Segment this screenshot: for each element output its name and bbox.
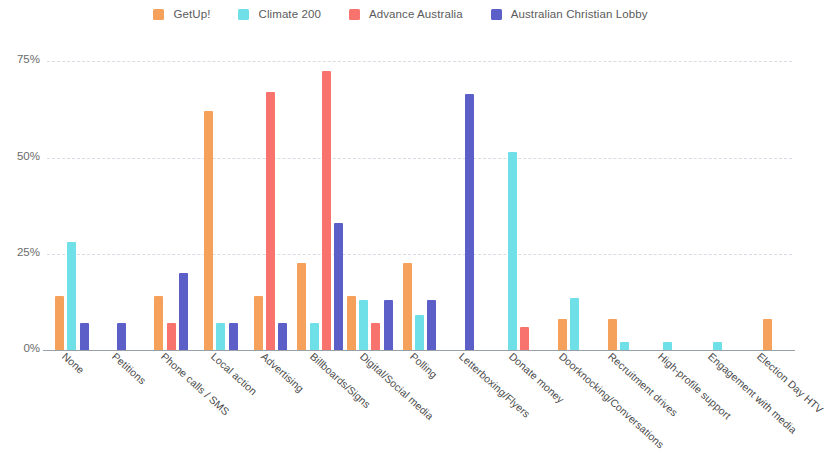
bar-group — [544, 42, 594, 350]
bar-group — [146, 42, 196, 350]
bar-group — [643, 42, 693, 350]
legend-item-label: GetUp! — [173, 8, 210, 20]
x-axis-tick-label: Local action — [209, 350, 260, 397]
legend-swatch-icon — [238, 9, 249, 20]
y-axis-tick-label: 50% — [0, 150, 40, 162]
legend-item-label: Advance Australia — [369, 8, 463, 20]
bar[interactable] — [508, 152, 517, 350]
legend-swatch-icon — [349, 9, 360, 20]
bar[interactable] — [80, 323, 89, 350]
bar[interactable] — [570, 298, 579, 350]
bar-group — [742, 42, 792, 350]
y-axis-tick-label: 25% — [0, 246, 40, 258]
bar[interactable] — [663, 342, 672, 350]
bar[interactable] — [55, 296, 64, 350]
bar[interactable] — [266, 92, 275, 350]
x-axis-tick-label: Advertising — [258, 350, 305, 394]
x-axis-tick-label: None — [60, 350, 87, 376]
bar[interactable] — [67, 242, 76, 350]
bar[interactable] — [254, 296, 263, 350]
x-axis-tick-label: Doorknocking/Conversations — [556, 350, 666, 450]
bar-group — [97, 42, 147, 350]
bar-group — [693, 42, 743, 350]
legend-swatch-icon — [153, 9, 164, 20]
bar[interactable] — [763, 319, 772, 350]
bar[interactable] — [359, 300, 368, 350]
bar[interactable] — [167, 323, 176, 350]
bar-group — [47, 42, 97, 350]
bar-group — [593, 42, 643, 350]
bar[interactable] — [384, 300, 393, 350]
bar[interactable] — [465, 94, 474, 350]
bar[interactable] — [427, 300, 436, 350]
legend-item-label: Climate 200 — [258, 8, 320, 20]
bar[interactable] — [347, 296, 356, 350]
x-axis-tick-label: Polling — [407, 350, 439, 380]
legend-item-label: Australian Christian Lobby — [511, 8, 648, 20]
bar-group — [246, 42, 296, 350]
bar[interactable] — [334, 223, 343, 350]
bar[interactable] — [154, 296, 163, 350]
bar[interactable] — [620, 342, 629, 350]
legend-item[interactable]: Advance Australia — [349, 8, 463, 20]
bar[interactable] — [278, 323, 287, 350]
x-axis-tick-label: Petitions — [109, 350, 148, 386]
bar[interactable] — [415, 315, 424, 350]
chart-legend: GetUp!Climate 200Advance AustraliaAustra… — [0, 0, 801, 28]
bar-group — [345, 42, 395, 350]
bar[interactable] — [713, 342, 722, 350]
legend-swatch-icon — [491, 9, 502, 20]
bar-group — [196, 42, 246, 350]
bar[interactable] — [310, 323, 319, 350]
bar[interactable] — [204, 111, 213, 350]
bar-group — [444, 42, 494, 350]
bar-group — [494, 42, 544, 350]
bar[interactable] — [371, 323, 380, 350]
x-axis-labels: NonePetitionsPhone calls / SMSLocal acti… — [47, 350, 792, 471]
bar[interactable] — [229, 323, 238, 350]
bar[interactable] — [558, 319, 567, 350]
bar[interactable] — [297, 263, 306, 350]
bar[interactable] — [179, 273, 188, 350]
bar-group — [395, 42, 445, 350]
bar[interactable] — [520, 327, 529, 350]
bar[interactable] — [322, 71, 331, 350]
legend-item[interactable]: GetUp! — [153, 8, 210, 20]
bar-group — [295, 42, 345, 350]
y-axis-tick-label: 75% — [0, 53, 40, 65]
bar[interactable] — [117, 323, 126, 350]
plot-area — [47, 42, 792, 350]
legend-item[interactable]: Climate 200 — [238, 8, 320, 20]
bar[interactable] — [216, 323, 225, 350]
x-axis-tick-label: Engagement with media — [705, 350, 798, 436]
y-axis-tick-label: 0% — [0, 342, 40, 354]
bar[interactable] — [403, 263, 412, 350]
legend-item[interactable]: Australian Christian Lobby — [491, 8, 648, 20]
bar[interactable] — [608, 319, 617, 350]
